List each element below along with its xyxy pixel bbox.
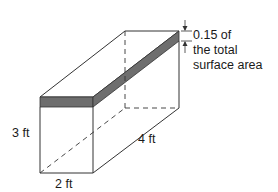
annotation-line-1: 0.15 of <box>193 28 262 43</box>
height-label: 3 ft <box>12 126 29 140</box>
length-label: 4 ft <box>138 132 155 146</box>
arrow-up-icon <box>183 41 188 46</box>
annotation-line-3: surface area <box>193 58 262 73</box>
annotation-line-2: the total <box>193 43 262 58</box>
hidden-diagonal-edge <box>40 108 125 173</box>
width-label: 2 ft <box>55 177 72 191</box>
arrow-down-icon <box>183 26 188 31</box>
side-bottom-edge <box>93 108 179 173</box>
surface-area-annotation: 0.15 of the total surface area <box>193 28 262 73</box>
shaded-band-front <box>40 97 93 107</box>
